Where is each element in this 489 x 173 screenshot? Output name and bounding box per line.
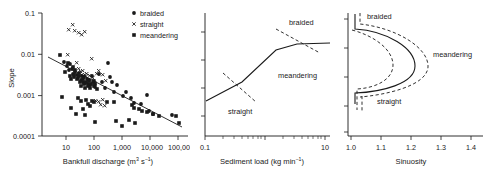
x-axis-title-close: ) [301, 157, 304, 166]
x-axis-ticks [205, 136, 325, 140]
annotation-straight: straight [377, 97, 401, 106]
meandering-braided-divider [276, 29, 320, 53]
legend-label-straight: straight [140, 20, 164, 29]
x-tick-label-1: 10 [321, 143, 329, 152]
legend-marker-straight [132, 22, 135, 25]
straight-meandering-divider [223, 73, 256, 102]
x-tick-label-2: 1,000 [113, 143, 131, 152]
y-axis-ticks [201, 32, 205, 116]
upper-envelope-curve [360, 13, 428, 97]
y-axis-title: Slope [7, 68, 16, 87]
x-axis-title: Sinuosity [396, 157, 427, 166]
x-axis-title: Bankfull discharge (m3 s−1) [63, 156, 154, 166]
x-tick-label-4: 100,000 [168, 143, 190, 152]
x-tick-label-4: 1.4 [466, 143, 476, 152]
x-tick-label-3: 10,000 [141, 143, 163, 152]
panel-discharge-svg: 0.1 0.01 0.001 0.0001 Slope 10 100 1,000… [0, 0, 190, 173]
x-axis-ticks [351, 136, 471, 140]
x-axis-title-base: Bankfull discharge (m [63, 157, 136, 166]
y-tick-label-2: 0.001 [17, 91, 35, 100]
axis-lines [348, 13, 483, 136]
x-tick-label-1: 100 [88, 143, 100, 152]
panel-sediment-svg: 0.1 10 Sediment load (kg min−1) braided … [190, 0, 335, 173]
annotation-braided: braided [367, 12, 392, 21]
legend-marker-meandering [132, 33, 136, 37]
x-tick-label-0: 10 [62, 143, 70, 152]
y-tick-label-1: 0.01 [21, 50, 35, 59]
y-tick-label-0: 0.1 [25, 9, 35, 18]
annotation-meandering: meandering [278, 71, 317, 80]
panel-sinuosity: 1.0 1.1 1.2 1.3 1.4 Sinuosity braided me… [335, 0, 489, 173]
annotation-straight: straight [228, 107, 252, 116]
legend-label-meandering: meandering [140, 31, 178, 40]
legend: braided straight meandering [132, 9, 178, 40]
x-tick-label-0: 0.1 [200, 143, 210, 152]
x-axis-title: Sediment load (kg min−1) [220, 156, 304, 166]
y-axis-ticks [38, 13, 42, 136]
panel-sediment-load: 0.1 10 Sediment load (kg min−1) braided … [190, 0, 335, 173]
x-axis-title-base: Sediment load (kg min [220, 157, 296, 166]
mean-envelope-curve [355, 14, 415, 104]
x-tick-label-0: 1.0 [346, 143, 356, 152]
x-tick-label-1: 1.1 [376, 143, 386, 152]
legend-marker-braided [132, 11, 136, 15]
figure-container: 0.1 0.01 0.001 0.0001 Slope 10 100 1,000… [0, 0, 489, 173]
y-axis-ticks [344, 19, 348, 132]
legend-label-braided: braided [140, 9, 164, 18]
y-tick-label-3: 0.0001 [13, 132, 35, 141]
annotation-braided: braided [289, 18, 314, 27]
panel-sinuosity-svg: 1.0 1.1 1.2 1.3 1.4 Sinuosity braided me… [335, 0, 489, 173]
annotation-meandering: meandering [433, 50, 472, 59]
panel-bankfull-discharge: 0.1 0.01 0.001 0.0001 Slope 10 100 1,000… [0, 0, 190, 173]
x-axis-ticks [66, 136, 178, 140]
x-tick-label-3: 1.3 [436, 143, 446, 152]
x-axis-title-close: ) [151, 157, 154, 166]
x-tick-label-2: 1.2 [406, 143, 416, 152]
